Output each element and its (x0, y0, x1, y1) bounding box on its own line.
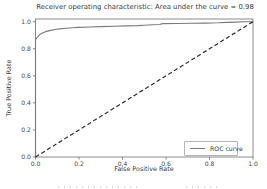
x-tick-label: 0.2 (74, 160, 84, 167)
chance-diagonal-line (36, 22, 254, 157)
legend: ROC curve (184, 141, 238, 156)
y-tick-label: 0.0 (14, 153, 31, 160)
cropped-caption-fragments (186, 186, 218, 188)
x-tick-label: 0.0 (31, 160, 41, 167)
roc-chart-figure: Receiver operating characteristic: Area … (0, 0, 267, 189)
legend-label: ROC curve (210, 145, 243, 152)
x-tick-label: 0.6 (161, 160, 171, 167)
legend-line-icon (190, 148, 205, 149)
y-tick-label: 1.0 (14, 18, 31, 25)
x-tick-label: 1.0 (248, 160, 258, 167)
y-tick-label: 0.8 (14, 45, 31, 52)
y-tick-label: 0.4 (14, 99, 31, 106)
axes-spines (36, 19, 254, 157)
y-axis-label: True Positive Rate (5, 60, 13, 117)
x-tick-label: 0.4 (118, 160, 128, 167)
y-tick-label: 0.6 (14, 72, 31, 79)
cropped-caption-fragments (58, 186, 138, 188)
y-tick-label: 0.2 (14, 126, 31, 133)
x-tick-label: 0.8 (205, 160, 215, 167)
x-axis-label: False Positive Rate (35, 165, 253, 173)
